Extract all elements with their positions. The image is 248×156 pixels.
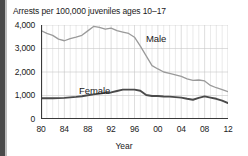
series-label-female: Female bbox=[79, 85, 110, 96]
chart-title: Arrests per 100,000 juveniles ages 10–17 bbox=[13, 6, 213, 17]
y-tick-label: 0 bbox=[5, 114, 35, 124]
y-tick-label: 3,000 bbox=[5, 43, 35, 53]
x-tick-label: 88 bbox=[78, 124, 98, 134]
y-tick-label: 4,000 bbox=[5, 20, 35, 30]
x-tick-label: 80 bbox=[31, 124, 51, 134]
y-tick-label: 1,000 bbox=[5, 90, 35, 100]
x-tick-label: 00 bbox=[148, 124, 168, 134]
x-tick-label: 84 bbox=[54, 124, 74, 134]
x-axis-title: Year bbox=[0, 141, 248, 151]
chart-plot-svg bbox=[41, 25, 228, 119]
x-tick-label: 04 bbox=[171, 124, 191, 134]
plot-area bbox=[41, 25, 228, 119]
x-tick-label: 96 bbox=[125, 124, 145, 134]
x-tick-label: 92 bbox=[101, 124, 121, 134]
x-tick-label: 12 bbox=[218, 124, 238, 134]
chart-figure: Arrests per 100,000 juveniles ages 10–17… bbox=[0, 0, 248, 156]
y-tick-label: 2,000 bbox=[5, 67, 35, 77]
x-tick-label: 08 bbox=[195, 124, 215, 134]
series-label-male: Male bbox=[146, 33, 166, 44]
